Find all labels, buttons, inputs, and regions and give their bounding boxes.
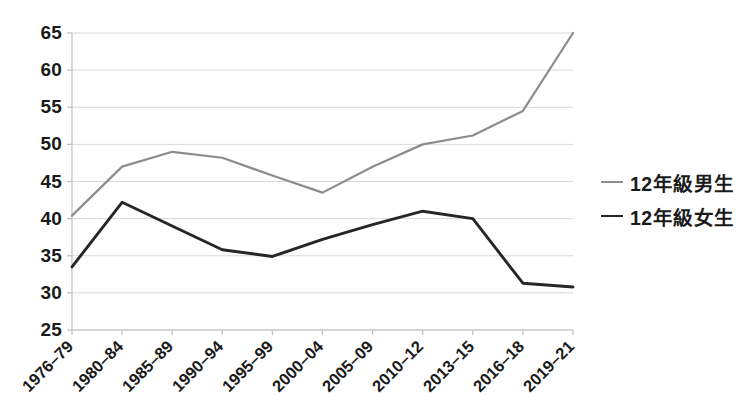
legend-item[interactable]: 12年級女生 [601,199,749,233]
x-tick-label: 1980–84 [69,338,126,395]
x-tick-label: 2013–15 [420,338,477,395]
x-tick-label: 2019–21 [520,338,577,395]
legend-item[interactable]: 12年級男生 [601,165,749,199]
x-tick-label: 1976–79 [19,338,76,395]
x-tick-label: 2010–12 [369,338,426,395]
legend-line-swatch-icon [601,215,623,217]
legend-item-label: 12年級女生 [630,202,735,231]
x-tick-label: 2000–04 [269,338,326,395]
line-chart: 253035404550556065 1976–791980–841985–89… [0,0,752,413]
legend-line-swatch-icon [601,181,623,183]
x-tick-label: 1985–89 [119,338,176,395]
legend-item-label: 12年級男生 [630,168,735,197]
x-tick-label: 1990–94 [169,338,226,395]
x-tick-label: 1995–99 [219,338,276,395]
x-tick-label: 2016–18 [470,338,527,395]
chart-legend: 12年級男生12年級女生 [601,165,749,233]
x-tick-label: 2005–09 [319,338,376,395]
